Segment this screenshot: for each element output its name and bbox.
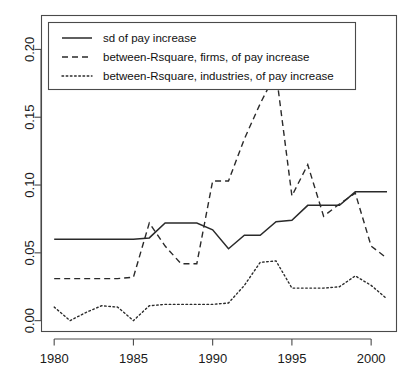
y-axis-tick-label: 0.20 bbox=[22, 37, 37, 62]
chart-container: 0.000.050.100.150.20 1980198519901995200… bbox=[0, 0, 411, 383]
x-axis-tick-label: 1980 bbox=[40, 351, 69, 366]
y-axis-tick-label: 0.00 bbox=[22, 308, 37, 333]
y-axis-tick-label: 0.15 bbox=[22, 105, 37, 130]
legend-label: between-Rsquare, industries, of pay incr… bbox=[103, 70, 334, 82]
x-axis-tick-label: 2000 bbox=[357, 351, 386, 366]
line-chart: 0.000.050.100.150.20 1980198519901995200… bbox=[0, 0, 411, 383]
legend-label: between-Rsquare, firms, of pay increase bbox=[103, 51, 309, 63]
y-axis-tick-label: 0.10 bbox=[22, 172, 37, 197]
x-axis-tick-label: 1985 bbox=[119, 351, 148, 366]
y-axis-tick-label: 0.05 bbox=[22, 240, 37, 265]
legend-label: sd of pay increase bbox=[103, 32, 196, 44]
x-axis-tick-label: 1990 bbox=[198, 351, 227, 366]
x-axis-tick-label: 1995 bbox=[277, 351, 306, 366]
chart-legend: sd of pay increasebetween-Rsquare, firms… bbox=[49, 23, 356, 90]
